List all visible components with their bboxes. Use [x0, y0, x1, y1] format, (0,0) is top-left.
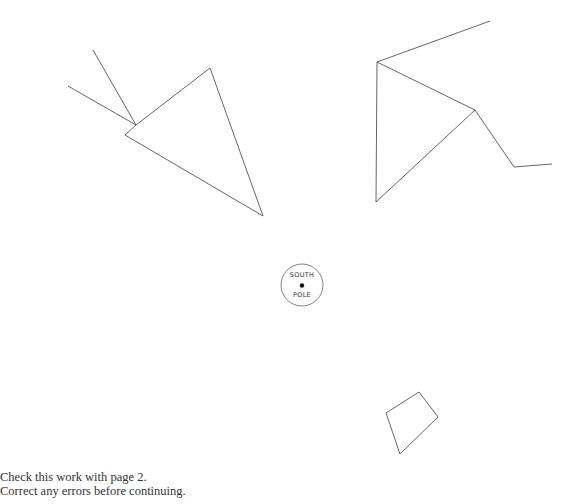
left-triangle — [125, 68, 263, 216]
caption-line-2: Correct any errors before continuing. — [0, 484, 186, 498]
caption-line-1: Check this work with page 2. — [0, 470, 186, 484]
diagram-shapes — [68, 21, 552, 454]
caption: Check this work with page 2. Correct any… — [0, 470, 186, 498]
diagram-canvas: SOUTH POLE — [0, 0, 579, 504]
right-triangle — [376, 62, 475, 202]
south-pole-marker: SOUTH POLE — [281, 264, 323, 306]
pole-label-south: SOUTH — [290, 271, 314, 279]
pole-label-pole: POLE — [293, 291, 311, 299]
bottom-quad — [386, 392, 438, 454]
left-ray-2 — [68, 86, 136, 125]
pole-dot-icon — [300, 283, 304, 287]
right-figure-upper — [377, 21, 552, 167]
left-ray-1 — [93, 50, 136, 125]
